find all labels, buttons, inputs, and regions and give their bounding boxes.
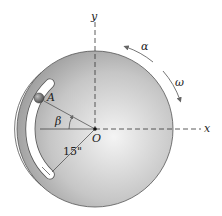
beta-label: β <box>54 115 61 128</box>
disk-diagram: y x β 15" A O α ω <box>0 0 222 216</box>
x-axis-label: x <box>204 122 211 135</box>
origin-label: O <box>92 132 101 145</box>
y-axis-label: y <box>90 10 98 23</box>
omega-label: ω <box>175 76 184 89</box>
point-A-label: A <box>46 91 55 104</box>
alpha-arrow: α <box>126 40 153 62</box>
radius-label: 15" <box>63 145 82 158</box>
omega-arrow: ω <box>163 71 184 100</box>
alpha-label: α <box>141 40 149 53</box>
